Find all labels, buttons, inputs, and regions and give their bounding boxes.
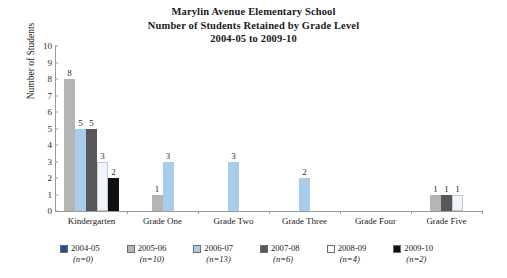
chart-title: Marylin Avenue Elementary School Number …: [0, 5, 507, 46]
legend-swatch-icon: [260, 245, 268, 253]
bar-value-label: 1: [447, 184, 469, 194]
x-axis-tick-mark: [411, 211, 412, 214]
legend-sample-size: (n=6): [271, 254, 300, 265]
legend-sample-size: (n=2): [404, 254, 433, 265]
legend-sample-size: (n=4): [338, 254, 367, 265]
plot-area: 855321332111: [56, 46, 482, 211]
x-axis-label-grade-two: Grade Two: [214, 216, 254, 226]
bar-2006-07-grade-three[interactable]: 2: [299, 46, 310, 211]
legend-item-2005-06[interactable]: 2005-06(n=10): [127, 243, 194, 265]
bar-group-grade-three: 2: [269, 46, 340, 211]
bar-2008-09-grade-five[interactable]: 1: [452, 46, 463, 211]
x-axis-tick-mark: [127, 211, 128, 214]
chart-title-line-1: Marylin Avenue Elementary School: [0, 5, 507, 19]
legend-label: 2005-06(n=10): [138, 243, 167, 265]
bar-2009-10-kindergarten[interactable]: 2: [108, 46, 119, 211]
y-axis-tick-7: 7: [30, 91, 52, 101]
y-axis-tick-2: 2: [30, 173, 52, 183]
legend-sample-size: (n=10): [138, 254, 167, 265]
y-axis-tick-mark-6: [55, 112, 58, 113]
y-axis-tick-mark-8: [55, 79, 58, 80]
legend-swatch-icon: [393, 245, 401, 253]
legend-swatch-icon: [327, 245, 335, 253]
bar-group-grade-one: 13: [127, 46, 198, 211]
bar-group-kindergarten: 85532: [56, 46, 127, 211]
legend-sample-size: (n=13): [204, 254, 233, 265]
legend-label: 2009-10(n=2): [404, 243, 433, 265]
y-axis-tick-8: 8: [30, 74, 52, 84]
bar-group-grade-four: [340, 46, 411, 211]
legend-item-2006-07[interactable]: 2006-07(n=13): [193, 243, 260, 265]
bar-2006-07-kindergarten[interactable]: 5: [75, 46, 86, 211]
bar-group-grade-five: 111: [411, 46, 482, 211]
bar-2007-08-kindergarten[interactable]: 5: [86, 46, 97, 211]
y-axis-tick-mark-10: [55, 46, 58, 47]
legend-label: 2006-07(n=13): [204, 243, 233, 265]
x-axis-label-grade-one: Grade One: [143, 216, 182, 226]
x-axis-tick-mark: [269, 211, 270, 214]
legend-swatch-icon: [60, 245, 68, 253]
bar-value-label: 2: [294, 167, 316, 177]
chart-legend: 2004-05(n=0)2005-06(n=10)2006-07(n=13)20…: [60, 243, 460, 265]
bar-2005-06-kindergarten[interactable]: 8: [64, 46, 75, 211]
y-axis-tick-4: 4: [30, 140, 52, 150]
bar-rect[interactable]: [452, 195, 463, 212]
y-axis-tick-3: 3: [30, 157, 52, 167]
y-axis-tick-mark-9: [55, 62, 58, 63]
x-axis-label-grade-five: Grade Five: [426, 216, 466, 226]
y-axis-tick-mark-4: [55, 145, 58, 146]
bar-2006-07-grade-two[interactable]: 3: [228, 46, 239, 211]
y-axis-tick-1: 1: [30, 190, 52, 200]
bar-rect[interactable]: [108, 178, 119, 211]
x-axis-label-kindergarten: Kindergarten: [68, 216, 115, 226]
x-axis-tick-mark: [340, 211, 341, 214]
y-axis-tick-9: 9: [30, 58, 52, 68]
bar-group-grade-two: 3: [198, 46, 269, 211]
bar-value-label: 2: [103, 167, 125, 177]
legend-item-2008-09[interactable]: 2008-09(n=4): [327, 243, 394, 265]
legend-item-2009-10[interactable]: 2009-10(n=2): [393, 243, 460, 265]
y-axis-tick-mark-5: [55, 128, 58, 129]
bar-rect[interactable]: [228, 162, 239, 212]
y-axis-tick-mark-0: [55, 211, 58, 212]
x-axis-tick-mark: [198, 211, 199, 214]
bar-2006-07-grade-one[interactable]: 3: [163, 46, 174, 211]
bar-2008-09-kindergarten[interactable]: 3: [97, 46, 108, 211]
legend-swatch-icon: [193, 245, 201, 253]
bar-rect[interactable]: [86, 129, 97, 212]
bar-rect[interactable]: [75, 129, 86, 212]
bar-rect[interactable]: [64, 79, 75, 211]
y-axis-tick-6: 6: [30, 107, 52, 117]
x-axis-tick-mark: [482, 211, 483, 214]
bar-2005-06-grade-one[interactable]: 1: [152, 46, 163, 211]
y-axis-tick-0: 0: [30, 206, 52, 216]
legend-sample-size: (n=0): [71, 254, 100, 265]
y-axis-tick-mark-2: [55, 178, 58, 179]
y-axis-tick-labels: 109876543210: [30, 46, 52, 212]
chart-title-line-3: 2004-05 to 2009-10: [0, 32, 507, 46]
x-axis-label-grade-three: Grade Three: [282, 216, 327, 226]
y-axis-tick-mark-3: [55, 161, 58, 162]
bar-rect[interactable]: [441, 195, 452, 212]
legend-label: 2008-09(n=4): [338, 243, 367, 265]
bar-rect[interactable]: [430, 195, 441, 212]
bar-rect[interactable]: [163, 162, 174, 212]
bar-value-label: 3: [223, 151, 245, 161]
chart-title-line-2: Number of Students Retained by Grade Lev…: [0, 19, 507, 33]
bar-value-label: 3: [157, 151, 179, 161]
legend-label: 2004-05(n=0): [71, 243, 100, 265]
y-axis-tick-5: 5: [30, 124, 52, 134]
legend-item-2004-05[interactable]: 2004-05(n=0): [60, 243, 127, 265]
legend-swatch-icon: [127, 245, 135, 253]
y-axis-tick-mark-1: [55, 194, 58, 195]
y-axis-tick-mark-7: [55, 95, 58, 96]
bar-rect[interactable]: [299, 178, 310, 211]
legend-item-2007-08[interactable]: 2007-08(n=6): [260, 243, 327, 265]
bar-rect[interactable]: [152, 195, 163, 212]
y-axis-tick-10: 10: [30, 41, 52, 51]
x-axis-label-grade-four: Grade Four: [355, 216, 396, 226]
legend-label: 2007-08(n=6): [271, 243, 300, 265]
